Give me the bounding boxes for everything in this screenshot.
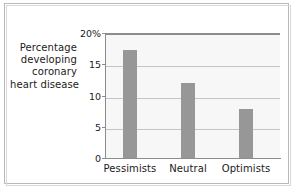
y-axis-tick-mark [102,96,106,97]
x-axis-tick-label: Optimists [217,163,275,174]
y-axis-tick-mark [102,127,106,128]
y-axis-tick-labels: 05101520% [40,0,101,195]
y-axis-tick-label: 0 [41,153,101,164]
y-axis-tick-mark [102,64,106,65]
y-axis-tick-mark [102,158,106,159]
y-axis-tick-mark [102,33,106,34]
x-axis-line [105,158,281,159]
bar-pessimists [123,50,137,158]
bar-neutral [181,83,195,158]
y-axis-tick-label: 10 [41,90,101,101]
figure: Percentage developing coronary heart dis… [0,0,303,195]
y-axis-tick-label: 20% [41,28,101,39]
y-axis-tick-label: 15 [41,59,101,70]
x-axis-tick-label: Pessimists [101,163,159,174]
x-axis-tick-label: Neutral [159,163,217,174]
y-axis-tick-label: 5 [41,121,101,132]
bar-optimists [239,109,253,158]
